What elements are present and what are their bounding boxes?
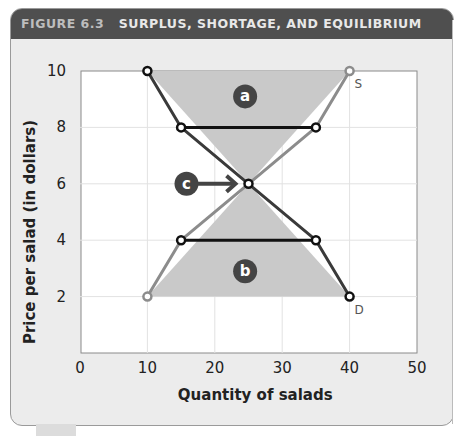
curve-label-d: D: [355, 303, 364, 317]
y-tick-label: 6: [56, 175, 66, 193]
data-point: [245, 180, 253, 188]
y-axis-label: Price per salad (in dollars): [21, 120, 39, 344]
curve-label-s: S: [355, 77, 363, 91]
x-tick-label: 10: [138, 359, 157, 377]
x-tick-label: 20: [205, 359, 224, 377]
chart: DS 01020304050246810 Quantity of salads …: [0, 0, 468, 436]
y-tick-label: 2: [56, 288, 66, 306]
x-axis-label: Quantity of salads: [178, 386, 333, 404]
data-point: [346, 293, 354, 301]
badge-a-text: a: [240, 87, 250, 105]
y-tick-label: 10: [47, 62, 66, 80]
data-point: [346, 67, 354, 75]
x-tick-label: 40: [340, 359, 359, 377]
data-point: [177, 236, 185, 244]
data-point: [143, 293, 151, 301]
y-tick-label: 8: [56, 118, 66, 136]
data-point: [143, 67, 151, 75]
data-point: [177, 123, 185, 131]
data-point: [312, 236, 320, 244]
y-tick-label: 4: [56, 231, 66, 249]
badge-b-text: b: [240, 262, 251, 280]
x-tick-label: 30: [273, 359, 292, 377]
badge-c-text: c: [182, 175, 191, 193]
x-tick-label: 0: [75, 359, 85, 377]
data-point: [312, 123, 320, 131]
x-tick-label: 50: [407, 359, 426, 377]
